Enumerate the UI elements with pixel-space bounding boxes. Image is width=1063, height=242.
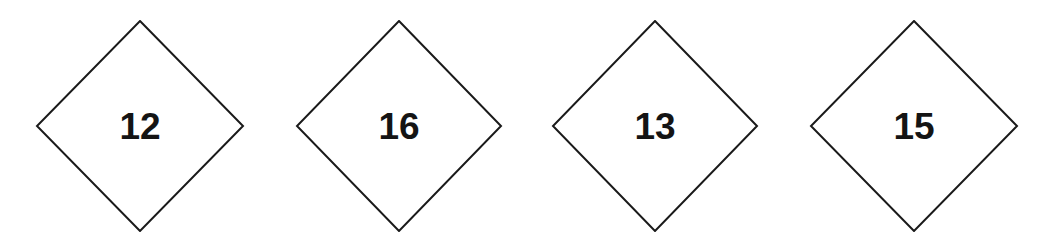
diamond-shape-2: 16 — [294, 20, 504, 232]
diamond-diagram: 12 16 13 15 — [0, 0, 1063, 242]
diamond-label-1: 12 — [35, 20, 245, 232]
diamond-shape-4: 15 — [809, 20, 1019, 232]
diamond-shape-3: 13 — [550, 20, 760, 232]
diamond-label-3: 13 — [550, 20, 760, 232]
diamond-label-4: 15 — [809, 20, 1019, 232]
diamond-label-2: 16 — [294, 20, 504, 232]
diamond-shape-1: 12 — [35, 20, 245, 232]
